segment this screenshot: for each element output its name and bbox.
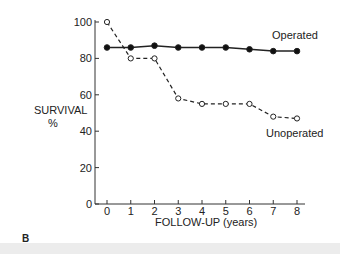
data-point-marker xyxy=(271,114,276,119)
y-axis-unit: % xyxy=(48,117,58,129)
data-point-marker xyxy=(223,45,229,51)
data-point-marker xyxy=(294,48,300,54)
y-tick-label: 40 xyxy=(80,125,92,137)
y-tick-label: 60 xyxy=(80,89,92,101)
x-axis-label: FOLLOW-UP (years) xyxy=(155,216,257,228)
data-point-marker xyxy=(128,56,133,61)
y-axis-label: SURVIVAL xyxy=(34,104,87,116)
bottom-band xyxy=(0,243,340,254)
x-tick-label: 8 xyxy=(294,205,300,217)
y-tick-label: 20 xyxy=(80,162,92,174)
data-point-marker xyxy=(199,101,204,106)
x-ticks: 012345678 xyxy=(104,200,300,217)
data-point-marker xyxy=(152,56,157,61)
data-point-marker xyxy=(104,45,110,51)
y-tick-label: 0 xyxy=(86,198,92,210)
data-point-marker xyxy=(128,45,134,51)
data-point-marker xyxy=(104,19,109,24)
data-point-marker xyxy=(199,45,205,51)
data-point-marker xyxy=(175,45,181,51)
legend-operated: Operated xyxy=(272,29,318,41)
y-tick-label: 80 xyxy=(80,52,92,64)
data-point-marker xyxy=(270,48,276,54)
data-point-marker xyxy=(223,101,228,106)
data-point-marker xyxy=(152,43,158,49)
data-series xyxy=(104,19,300,121)
x-tick-label: 0 xyxy=(104,205,110,217)
data-point-marker xyxy=(247,47,253,53)
x-tick-label: 1 xyxy=(128,205,134,217)
data-point-marker xyxy=(294,116,299,121)
y-tick-label: 100 xyxy=(74,16,92,28)
data-point-marker xyxy=(176,96,181,101)
data-point-marker xyxy=(247,101,252,106)
legend-unoperated: Unoperated xyxy=(266,127,324,139)
x-tick-label: 7 xyxy=(270,205,276,217)
